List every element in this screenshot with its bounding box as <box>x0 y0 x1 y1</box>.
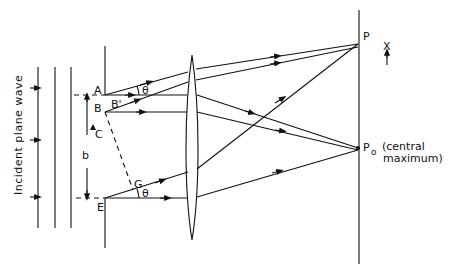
label-p0-subscript: o <box>371 147 377 157</box>
label-x: X <box>383 40 391 53</box>
central-max-line2: maximum) <box>383 152 443 165</box>
label-theta-top: θ <box>142 84 149 97</box>
width-label: b <box>82 149 89 162</box>
rays <box>105 44 358 198</box>
incident-wave-label: Incident plane wave <box>12 75 25 195</box>
label-p: P <box>363 30 370 43</box>
c-marker-icon <box>90 124 96 130</box>
label-b-prime: B' <box>111 98 122 111</box>
label-b: B <box>94 102 102 115</box>
label-c: C <box>95 128 103 141</box>
label-a: A <box>94 84 102 97</box>
label-e: E <box>97 201 104 214</box>
label-p0: P <box>363 141 370 154</box>
dash-bg <box>105 112 133 190</box>
wavefronts <box>30 67 71 228</box>
label-theta-bottom: θ <box>142 187 149 200</box>
diffraction-diagram: Incident plane wave b <box>0 0 463 274</box>
convex-lens <box>186 55 198 240</box>
theta-arc-top <box>137 86 139 95</box>
p0-dot <box>356 146 360 150</box>
